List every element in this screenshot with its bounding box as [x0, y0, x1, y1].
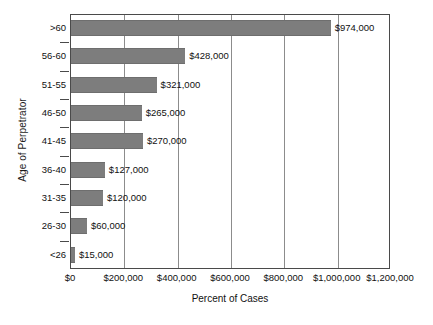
- bar: [71, 247, 75, 263]
- y-axis-category-label: <26: [2, 246, 66, 263]
- bar: [71, 218, 87, 234]
- bar-value-label: $15,000: [79, 246, 113, 263]
- bar-value-label: $120,000: [107, 189, 147, 206]
- bar-row: $270,000: [71, 128, 391, 156]
- x-axis-tick-label: $1,200,000: [366, 271, 414, 285]
- y-axis-tick: [60, 71, 69, 72]
- x-axis-tick-label: $0: [65, 271, 76, 285]
- bar-value-label: $60,000: [91, 217, 125, 234]
- bar-row: $974,000: [71, 15, 391, 43]
- bar-row: $127,000: [71, 157, 391, 185]
- x-axis-tick-label: $1,000,000: [313, 271, 361, 285]
- x-axis-tick-label: $800,000: [264, 271, 304, 285]
- bar: [71, 48, 185, 64]
- y-axis-category-label: 31-35: [2, 189, 66, 206]
- x-axis-tick-label: $600,000: [210, 271, 250, 285]
- y-axis-tick: [60, 99, 69, 100]
- bar: [71, 190, 103, 206]
- bar-value-label: $321,000: [161, 76, 201, 93]
- bar: [71, 105, 142, 121]
- x-axis-tick-label: $200,000: [104, 271, 144, 285]
- x-axis-tick-label: $400,000: [157, 271, 197, 285]
- bar-value-label: $265,000: [146, 104, 186, 121]
- bar: [71, 77, 157, 93]
- x-axis-title: Percent of Cases: [70, 292, 390, 306]
- y-axis-tick: [60, 156, 69, 157]
- bar-row: $428,000: [71, 43, 391, 71]
- y-axis-category-labels: >6056-6051-5546-5041-4536-4031-3526-30<2…: [0, 14, 66, 269]
- y-axis-category-label: 41-45: [2, 132, 66, 149]
- bar-chart: Age of Perpetrator >6056-6051-5546-5041-…: [0, 0, 433, 325]
- y-axis-tick: [60, 127, 69, 128]
- bar-value-label: $974,000: [335, 19, 375, 36]
- y-axis-category-label: 56-60: [2, 47, 66, 64]
- bar-row: $15,000: [71, 242, 391, 270]
- y-axis-tick: [60, 241, 69, 242]
- bar-value-label: $270,000: [147, 132, 187, 149]
- y-axis-category-label: >60: [2, 19, 66, 36]
- bar: [71, 20, 331, 36]
- y-axis-tick: [60, 42, 69, 43]
- bar-value-label: $428,000: [189, 47, 229, 64]
- x-axis-tick-labels: $0$200,000$400,000$600,000$800,000$1,000…: [0, 271, 433, 287]
- bar-row: $265,000: [71, 100, 391, 128]
- bar-value-label: $127,000: [109, 161, 149, 178]
- y-axis-category-label: 36-40: [2, 161, 66, 178]
- y-axis-tick: [60, 212, 69, 213]
- y-axis-category-label: 51-55: [2, 76, 66, 93]
- bar-row: $60,000: [71, 213, 391, 241]
- bar: [71, 162, 105, 178]
- y-axis-category-label: 26-30: [2, 217, 66, 234]
- y-axis-tick: [60, 184, 69, 185]
- bar-row: $120,000: [71, 185, 391, 213]
- bar: [71, 133, 143, 149]
- plot-area: $974,000$428,000$321,000$265,000$270,000…: [70, 14, 390, 269]
- bar-row: $321,000: [71, 72, 391, 100]
- y-axis-category-label: 46-50: [2, 104, 66, 121]
